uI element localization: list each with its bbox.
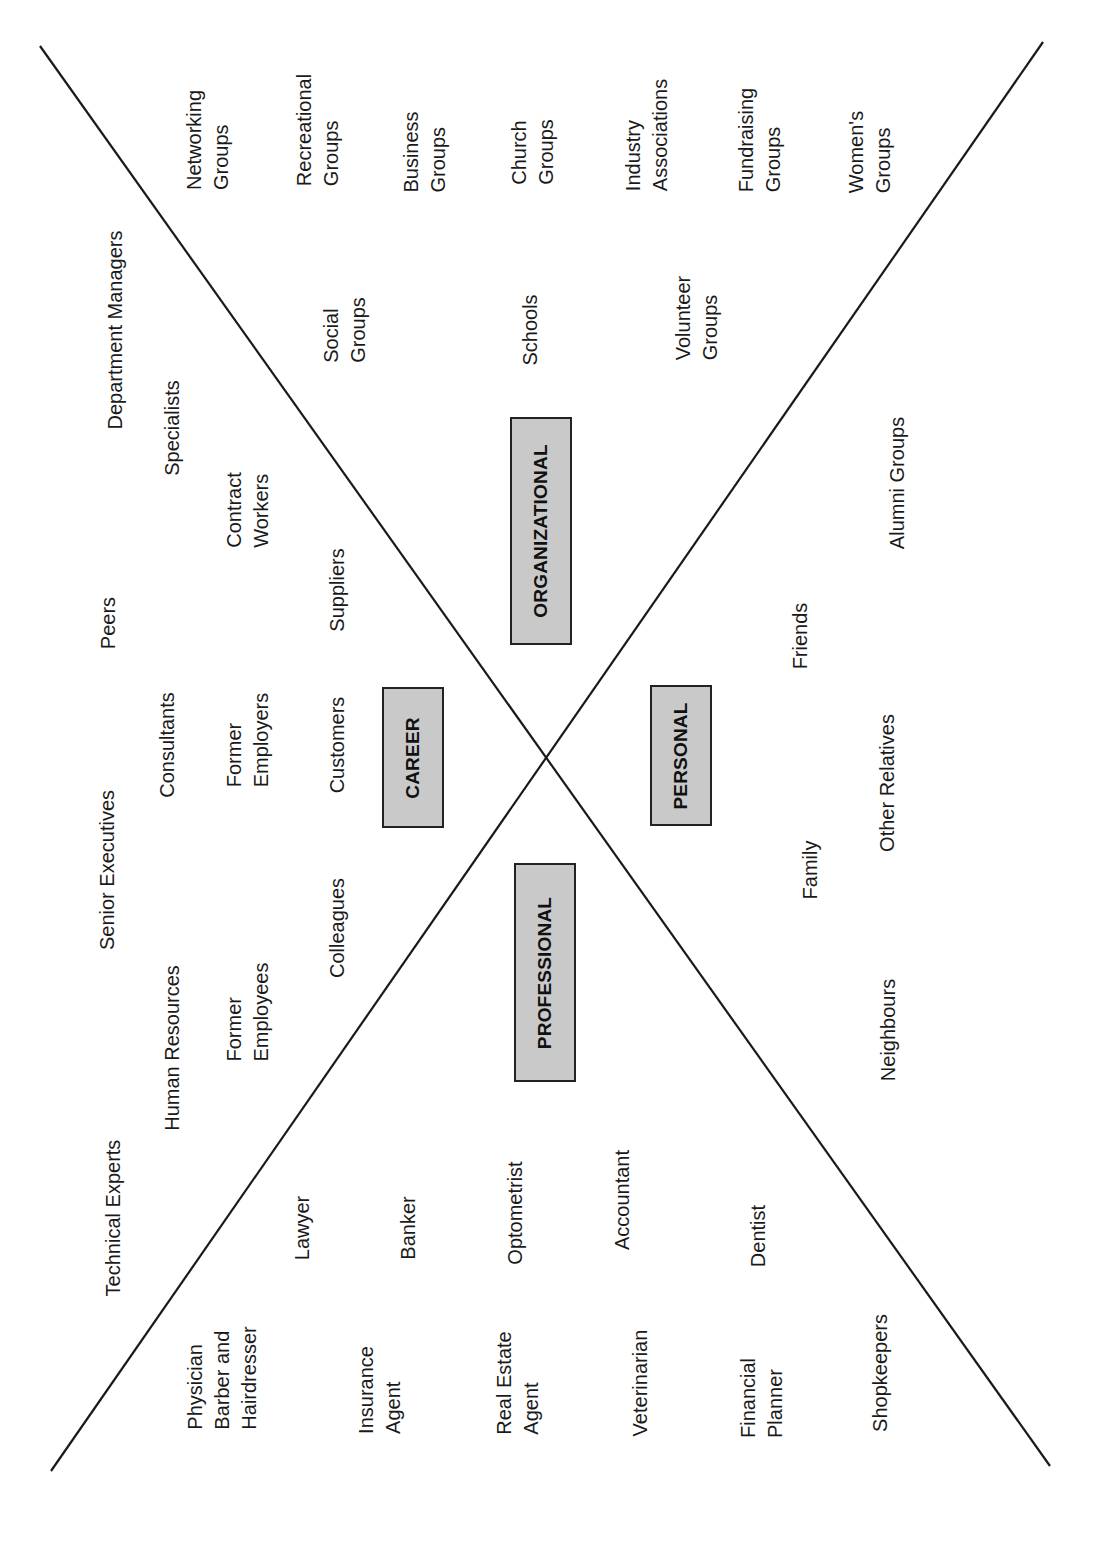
organizational-contact-label: Women's Groups: [843, 111, 897, 193]
personal-contact-label: Family: [797, 841, 824, 900]
category-label-personal: PERSONAL: [670, 702, 692, 809]
professional-contact-label: Veterinarian: [627, 1330, 654, 1437]
career-contact-label: Customers: [324, 697, 351, 794]
organizational-contact-label: Alumni Groups: [884, 417, 911, 549]
career-contact-label: Department Managers: [102, 231, 129, 430]
career-contact-label: Suppliers: [324, 548, 351, 631]
category-label-organizational: ORGANIZATIONAL: [530, 444, 552, 617]
category-box-professional: PROFESSIONAL: [514, 863, 576, 1082]
category-box-personal: PERSONAL: [650, 685, 712, 826]
professional-contact-label: Financial Planner: [735, 1358, 789, 1438]
organizational-contact-label: Volunteer Groups: [670, 276, 724, 361]
career-contact-label: Former Employers: [221, 693, 275, 787]
professional-contact-label: Dentist: [745, 1205, 772, 1267]
career-contact-label: Human Resources: [159, 965, 186, 1131]
category-label-professional: PROFESSIONAL: [534, 896, 556, 1048]
professional-contact-label: Physician Barber and Hairdresser: [182, 1326, 263, 1429]
professional-contact-label: Real Estate Agent: [491, 1331, 545, 1434]
professional-contact-label: Banker: [395, 1196, 422, 1259]
network-diagram: ORGANIZATIONAL CAREER PERSONAL PROFESSIO…: [0, 0, 1097, 1546]
career-contact-label: Colleagues: [324, 878, 351, 978]
career-contact-label: Peers: [95, 597, 122, 649]
career-contact-label: Specialists: [159, 380, 186, 476]
category-box-career: CAREER: [382, 687, 444, 828]
organizational-contact-label: Networking Groups: [181, 90, 235, 190]
organizational-contact-label: Industry Associations: [620, 79, 674, 191]
career-contact-label: Contract Workers: [221, 472, 275, 548]
career-contact-label: Technical Experts: [100, 1140, 127, 1297]
professional-contact-label: Lawyer: [289, 1196, 316, 1260]
personal-contact-label: Other Relatives: [874, 714, 901, 852]
career-contact-label: Consultants: [154, 692, 181, 798]
organizational-contact-label: Business Groups: [398, 111, 452, 192]
organizational-contact-label: Schools: [517, 294, 544, 365]
category-label-career: CAREER: [402, 717, 424, 798]
organizational-contact-label: Church Groups: [506, 119, 560, 185]
professional-contact-label: Accountant: [609, 1150, 636, 1250]
professional-contact-label: Optometrist: [502, 1161, 529, 1264]
personal-contact-label: Neighbours: [875, 979, 902, 1081]
organizational-contact-label: Fundraising Groups: [733, 88, 787, 193]
career-contact-label: Senior Executives: [94, 790, 121, 950]
organizational-contact-label: Social Groups: [318, 297, 372, 363]
career-contact-label: Former Employees: [221, 963, 275, 1062]
category-box-organizational: ORGANIZATIONAL: [510, 417, 572, 645]
professional-contact-label: Insurance Agent: [353, 1346, 407, 1434]
professional-contact-label: Shopkeepers: [867, 1314, 894, 1432]
personal-contact-label: Friends: [787, 603, 814, 670]
organizational-contact-label: Recreational Groups: [291, 74, 345, 186]
